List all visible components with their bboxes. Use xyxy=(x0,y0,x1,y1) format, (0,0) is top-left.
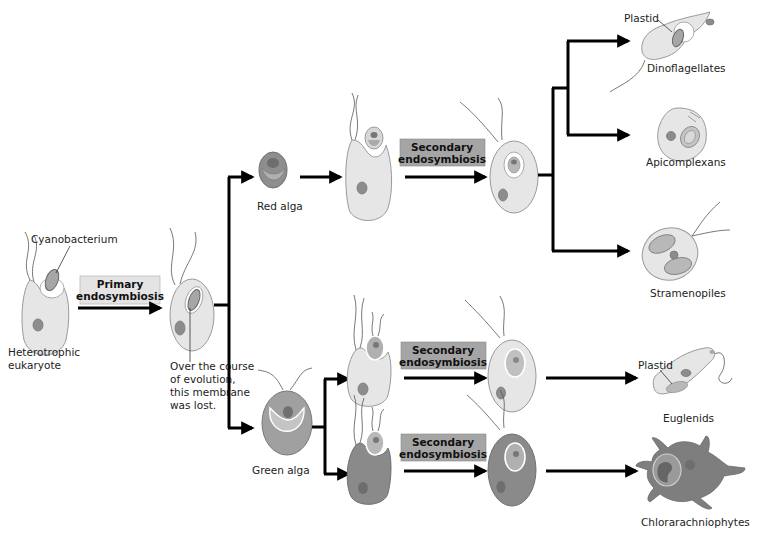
red-engulfing-cell xyxy=(346,93,392,221)
green-branch-connector xyxy=(312,379,348,474)
svg-text:endosymbiosis: endosymbiosis xyxy=(399,448,487,460)
green-alga-label: Green alga xyxy=(252,464,310,476)
secondary-endosymbiosis-green1-box: Secondary endosymbiosis xyxy=(399,342,487,369)
cyanobacterium-label: Cyanobacterium xyxy=(31,233,118,245)
secondary-endosymbiosis-red-box: Secondary endosymbiosis xyxy=(398,139,486,166)
membrane-note-line1: Over the course xyxy=(170,360,254,372)
svg-text:endosymbiosis: endosymbiosis xyxy=(399,356,487,368)
red-branch-connector xyxy=(538,41,628,251)
green-alga-cell xyxy=(258,368,312,455)
red-alga-label: Red alga xyxy=(257,200,303,212)
svg-text:Secondary: Secondary xyxy=(412,436,474,448)
euglenids-label: Euglenids xyxy=(663,412,714,424)
green-engulfing-cell-light xyxy=(347,295,391,406)
svg-text:endosymbiosis: endosymbiosis xyxy=(76,290,164,302)
membrane-note-line3: this membrane xyxy=(170,386,250,398)
heterotrophic-label-line2: eukaryote xyxy=(8,359,61,371)
endosymbiosis-diagram: Cyanobacterium Heterotrophic eukaryote P… xyxy=(0,0,757,533)
dinoflagellate-cell xyxy=(610,12,714,92)
primary-endosymbiosis-box: Primary endosymbiosis xyxy=(76,276,164,304)
plastid-label-dinoflagellates: Plastid xyxy=(624,12,659,24)
euglenid-cell xyxy=(653,348,732,395)
membrane-note-line2: of evolution, xyxy=(170,373,236,385)
red-alga-cell xyxy=(259,152,287,188)
svg-text:Secondary: Secondary xyxy=(412,344,474,356)
primary-result-cell xyxy=(170,228,214,362)
apicomplexans-label: Apicomplexans xyxy=(646,156,726,168)
green-engulfing-cell-dark xyxy=(347,395,391,504)
chlorarachniophytes-label: Chlorarachniophytes xyxy=(641,516,750,528)
stramenopiles-label: Stramenopiles xyxy=(650,287,726,299)
svg-text:endosymbiosis: endosymbiosis xyxy=(398,153,486,165)
dinoflagellates-label: Dinoflagellates xyxy=(647,62,726,74)
heterotrophic-eukaryote-cell xyxy=(22,232,70,355)
svg-text:Secondary: Secondary xyxy=(411,141,473,153)
svg-text:Primary: Primary xyxy=(97,278,144,290)
apicomplexan-cell xyxy=(658,108,707,161)
secondary-endosymbiosis-green2-box: Secondary endosymbiosis xyxy=(399,434,487,461)
stramenopile-cell xyxy=(635,202,730,288)
chlorarachniophyte-cell xyxy=(636,436,745,509)
plastid-label-euglenids: Plastid xyxy=(638,359,673,371)
membrane-note-line4: was lost. xyxy=(170,399,216,411)
heterotrophic-label-line1: Heterotrophic xyxy=(8,346,80,358)
